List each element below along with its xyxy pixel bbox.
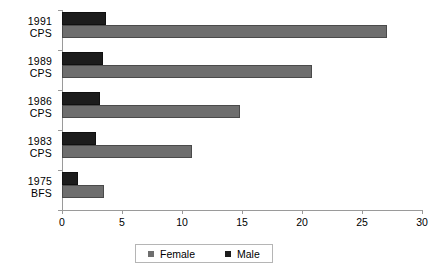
bar-chart: 1991 CPS 1989 CPS 1986 CPS 1983 CPS 1975…	[0, 0, 443, 274]
category-label-line1: 1986	[0, 96, 52, 108]
bar-1989-female	[62, 65, 312, 78]
bar-1991-male	[62, 12, 106, 25]
x-axis-tick-label: 25	[356, 216, 368, 228]
x-axis-tick	[422, 210, 423, 214]
bar-1975-male	[62, 172, 78, 185]
x-axis-tick	[302, 210, 303, 214]
category-label-line1: 1983	[0, 136, 52, 148]
x-axis-tick-label: 10	[176, 216, 188, 228]
category-label: 1991 CPS	[0, 16, 52, 39]
y-axis-tick	[58, 170, 62, 171]
y-axis-tick	[58, 90, 62, 91]
category-label-line2: BFS	[0, 188, 52, 200]
x-axis-tick	[182, 210, 183, 214]
x-axis-tick	[62, 210, 63, 214]
category-label-line1: 1989	[0, 56, 52, 68]
y-axis-tick	[58, 10, 62, 11]
x-axis-tick-label: 5	[119, 216, 125, 228]
legend-item-female[interactable]: Female	[148, 248, 195, 260]
x-axis-tick-label: 0	[59, 216, 65, 228]
y-axis-tick	[58, 50, 62, 51]
bar-1991-female	[62, 25, 387, 38]
bar-1986-male	[62, 92, 100, 105]
category-label-line2: CPS	[0, 28, 52, 40]
x-axis-tick	[242, 210, 243, 214]
legend-label-male: Male	[237, 248, 260, 260]
category-axis-labels: 1991 CPS 1989 CPS 1986 CPS 1983 CPS 1975…	[0, 10, 52, 210]
category-label-line1: 1991	[0, 16, 52, 28]
legend-label-female: Female	[160, 248, 195, 260]
legend-swatch-male-icon	[225, 251, 231, 257]
bar-1983-male	[62, 132, 96, 145]
plot-area: 0 5 10 15 20 25 30	[62, 10, 422, 210]
x-axis-tick	[362, 210, 363, 214]
bar-1983-female	[62, 145, 192, 158]
legend-swatch-female-icon	[148, 251, 154, 257]
category-label-line2: CPS	[0, 108, 52, 120]
category-label-line2: CPS	[0, 68, 52, 80]
category-label: 1983 CPS	[0, 136, 52, 159]
category-label-line2: CPS	[0, 148, 52, 160]
bar-1986-female	[62, 105, 240, 118]
legend-item-male[interactable]: Male	[225, 248, 260, 260]
chart-legend: Female Male	[135, 244, 273, 263]
x-axis-tick	[122, 210, 123, 214]
category-label: 1975 BFS	[0, 176, 52, 199]
x-axis-tick-label: 30	[416, 216, 428, 228]
x-axis-tick-label: 20	[296, 216, 308, 228]
category-label: 1986 CPS	[0, 96, 52, 119]
category-label-line1: 1975	[0, 176, 52, 188]
y-axis-tick	[58, 130, 62, 131]
bar-1975-female	[62, 185, 104, 198]
category-label: 1989 CPS	[0, 56, 52, 79]
x-axis-tick-label: 15	[236, 216, 248, 228]
bar-1989-male	[62, 52, 103, 65]
